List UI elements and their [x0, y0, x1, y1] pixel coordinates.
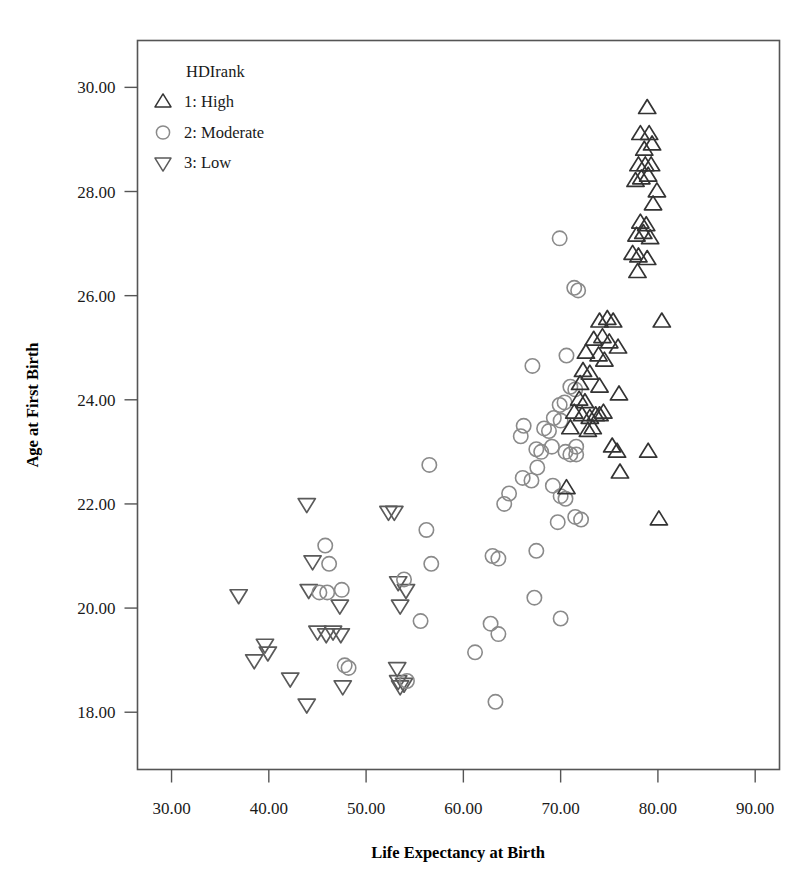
- y-tick-label: 28.00: [77, 183, 115, 202]
- x-tick-label: 90.00: [736, 799, 774, 818]
- legend-title: HDIrank: [186, 62, 245, 81]
- x-tick-label: 80.00: [639, 799, 677, 818]
- y-tick-label: 30.00: [77, 78, 115, 97]
- x-axis-title: Life Expectancy at Birth: [371, 843, 545, 862]
- y-tick-label: 22.00: [77, 495, 115, 514]
- y-tick-label: 18.00: [77, 703, 115, 722]
- y-tick-label: 26.00: [77, 287, 115, 306]
- y-tick-label: 20.00: [77, 599, 115, 618]
- x-tick-label: 60.00: [444, 799, 482, 818]
- legend-entry-label: 2: Moderate: [184, 123, 264, 142]
- plot-canvas: 30.0040.0050.0060.0070.0080.0090.00 18.0…: [0, 0, 812, 894]
- scatter-plot-figure: 30.0040.0050.0060.0070.0080.0090.00 18.0…: [0, 0, 812, 894]
- legend-entry-label: 1: High: [184, 92, 235, 111]
- x-tick-label: 70.00: [542, 799, 580, 818]
- legend-entry-label: 3: Low: [184, 153, 231, 172]
- figure-background: [0, 0, 812, 894]
- y-tick-label: 24.00: [77, 391, 115, 410]
- x-tick-label: 30.00: [152, 799, 190, 818]
- y-axis-title: Age at First Birth: [23, 342, 42, 467]
- x-tick-label: 50.00: [347, 799, 385, 818]
- x-tick-label: 40.00: [250, 799, 288, 818]
